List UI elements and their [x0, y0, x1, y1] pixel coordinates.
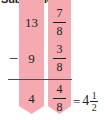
minuend-whole-number: 13	[19, 6, 44, 40]
difference-numerator: 4	[48, 82, 71, 97]
difference-whole-number: 4	[19, 82, 44, 116]
subtrahend-denominator: 8	[48, 60, 71, 75]
simplified-denominator: 2	[90, 102, 98, 113]
equals-sign: =	[73, 95, 80, 108]
simplified-fraction: 1 2	[90, 90, 98, 113]
difference-fraction: 4 8	[48, 82, 71, 116]
minuend-fraction-bar	[53, 22, 66, 23]
difference-fraction-bar	[53, 98, 66, 99]
difference-denominator: 8	[48, 100, 71, 115]
subtrahend-row: − 9 3 8	[0, 42, 104, 76]
simplified-result: = 4 1 2	[73, 86, 98, 116]
simplified-whole-number: 4	[82, 94, 89, 108]
simplified-numerator: 1	[90, 90, 98, 101]
subtraction-worksheet-figure: Subtraction 13 7 8 − 9 3 8 4 4 8 = 4 1	[0, 0, 104, 120]
subtraction-horizontal-rule	[8, 79, 72, 80]
subtrahend-whole-number: 9	[19, 42, 44, 76]
minuend-fraction: 7 8	[48, 6, 71, 40]
minuend-numerator: 7	[48, 6, 71, 21]
minuend-row: 13 7 8	[0, 6, 104, 40]
subtrahend-fraction-bar	[53, 58, 66, 59]
minuend-denominator: 8	[48, 24, 71, 39]
subtrahend-fraction: 3 8	[48, 42, 71, 76]
subtrahend-numerator: 3	[48, 42, 71, 57]
